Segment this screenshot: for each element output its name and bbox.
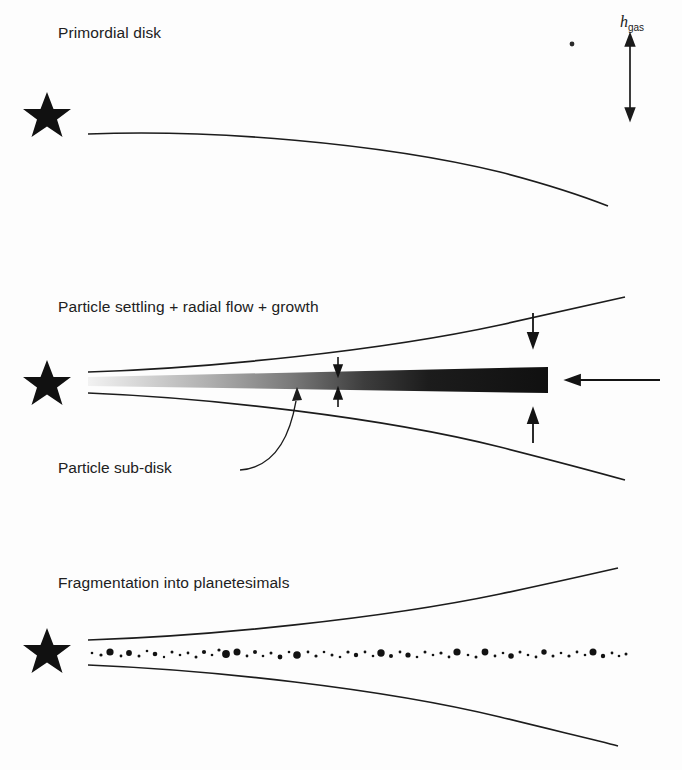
- surface-speck: [570, 42, 575, 47]
- panel-particle-settling: Particle settling + radial flow + growth: [0, 275, 682, 530]
- central-star-icon-fragmentation: [22, 628, 72, 680]
- settling-graphic: [0, 275, 682, 530]
- hgas-subscript: gas: [628, 22, 644, 33]
- planetesimal-field: [91, 648, 628, 659]
- central-star-icon-primordial: [22, 92, 72, 144]
- fragmentation-graphic: [0, 540, 682, 770]
- gas-disk-body: [80, 20, 615, 215]
- hgas-symbol: h: [620, 13, 628, 30]
- disk-envelope-lower-fragmentation: [88, 665, 618, 746]
- hgas-measure-arrow: [626, 34, 635, 120]
- hgas-annotation-label: hgas: [620, 14, 644, 33]
- particle-sub-disk-wedge: [88, 367, 548, 393]
- radial-inflow-arrow: [566, 375, 660, 385]
- callout-label-particle-sub-disk: Particle sub-disk: [58, 460, 172, 476]
- central-star-icon-settling: [22, 360, 72, 412]
- primordial-disk-graphic: [0, 0, 682, 265]
- disk-envelope-upper: [88, 297, 625, 372]
- panel-fragmentation: Fragmentation into planetesimals: [0, 540, 682, 770]
- panel-primordial-disk: Primordial disk: [0, 0, 682, 265]
- figure-canvas: Primordial disk: [0, 0, 682, 770]
- sub-disk-leader-line: [240, 387, 302, 470]
- disk-envelope-upper-fragmentation: [88, 568, 618, 640]
